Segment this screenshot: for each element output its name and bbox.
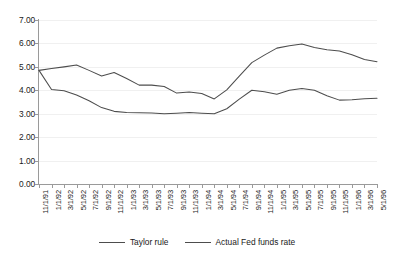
series-lines [0, 0, 394, 264]
legend-label: Taylor rule [130, 238, 169, 247]
series-line [39, 70, 377, 113]
chart-legend: Taylor ruleActual Fed funds rate [0, 238, 394, 247]
series-line [39, 44, 377, 99]
legend-entry: Taylor rule [99, 238, 169, 247]
legend-entry: Actual Fed funds rate [185, 238, 296, 247]
legend-line-swatch [99, 242, 125, 243]
legend-line-swatch [185, 242, 211, 243]
taylor-rule-line-chart: 0.001.002.003.004.005.006.007.00 11/1/91… [0, 0, 394, 264]
legend-label: Actual Fed funds rate [216, 238, 296, 247]
